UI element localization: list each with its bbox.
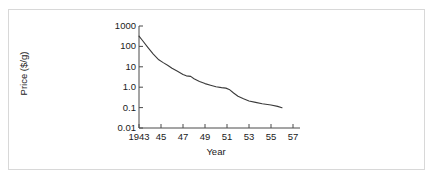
chart-plot-area: 1000100101.00.10.01 194345474951535557 P… bbox=[0, 0, 433, 179]
y-axis-title: Price ($/g) bbox=[18, 29, 29, 119]
x-axis-title: Year bbox=[139, 146, 293, 157]
x-tick-label: 57 bbox=[273, 132, 313, 142]
